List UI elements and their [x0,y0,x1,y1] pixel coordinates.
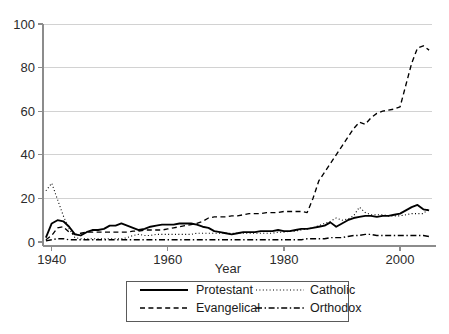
x-tick-label-1960: 1960 [153,252,182,267]
legend-label-protestant: Protestant [196,283,254,297]
x-tick-label-1980: 1980 [269,252,298,267]
y-tick-label-0: 0 [28,235,35,250]
y-tick-label-100: 100 [13,17,35,32]
y-tick-label-40: 40 [21,147,35,162]
y-tick-label-60: 60 [21,104,35,119]
y-tick-label-20: 20 [21,191,35,206]
legend-label-catholic: Catholic [310,283,355,297]
x-axis-title: Year [215,261,242,276]
chart-legend[interactable]: ProtestantCatholicEvangelicalOrthodox [127,282,363,322]
x-tick-label-2000: 2000 [386,252,415,267]
line-chart: 020406080100 1940196019802000 Year Prote… [0,0,449,334]
chart-figure: 020406080100 1940196019802000 Year Prote… [0,0,449,334]
y-tick-label-80: 80 [21,60,35,75]
legend-label-orthodox: Orthodox [310,301,362,315]
x-tick-label-1940: 1940 [37,252,66,267]
legend-label-evangelical: Evangelical [196,301,260,315]
